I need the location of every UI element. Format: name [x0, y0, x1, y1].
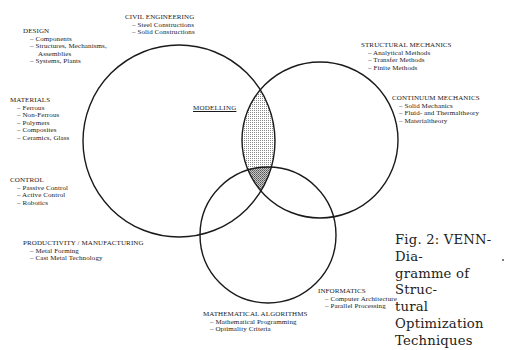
group-materials: MATERIALS Ferrous Non-Ferrous Polymers C… [10, 97, 69, 143]
group-civil-engineering: CIVIL ENGINEERING Steel Constructions So… [125, 14, 195, 37]
list-item: Finite Methods [368, 65, 452, 73]
group-design: DESIGN Components Structures, Mechanisms… [23, 28, 107, 66]
group-mathematical-algorithms: MATHEMATICAL ALGORITHMS Mathematical Pro… [203, 311, 308, 334]
group-control: CONTROL Passive Control Active Control R… [10, 177, 68, 207]
list-item: Cast Metal Technology [30, 255, 144, 263]
circle-bottom [200, 167, 336, 303]
list-item: Optimality Criteria [210, 326, 308, 334]
overlap-big-right [242, 62, 398, 218]
list-item: Robotics [17, 200, 68, 208]
list-item: Materialtheory [399, 118, 480, 126]
list-item: Solid Constructions [132, 29, 195, 37]
figure-caption: Fig. 2: VENN-Dia- gramme of Struc- tural… [395, 232, 509, 350]
group-structural-mechanics: STRUCTURAL MECHANICS Analytical Methods … [361, 42, 452, 72]
group-informatics: INFORMATICS Computer Architecture Parall… [318, 288, 397, 311]
caption-line: Techniques [395, 333, 509, 350]
caption-line: gramme of Struc- [395, 266, 509, 300]
caption-line: Fig. 2: VENN-Dia- [395, 232, 509, 266]
modelling-label: MODELLING [193, 104, 236, 112]
group-productivity-manufacturing: PRODUCTIVITY / MANUFACTURING Metal Formi… [23, 240, 144, 263]
caption-line: tural Optimization [395, 299, 509, 333]
list-item: Ceramics, Glass [17, 135, 69, 143]
group-continuum-mechanics: CONTINUUM MECHANICS Solid Mechanics Flui… [392, 95, 480, 125]
list-item: Systems, Plants [30, 58, 107, 66]
list-item: Parallel Processing [325, 303, 397, 311]
speck-mark [502, 259, 504, 261]
